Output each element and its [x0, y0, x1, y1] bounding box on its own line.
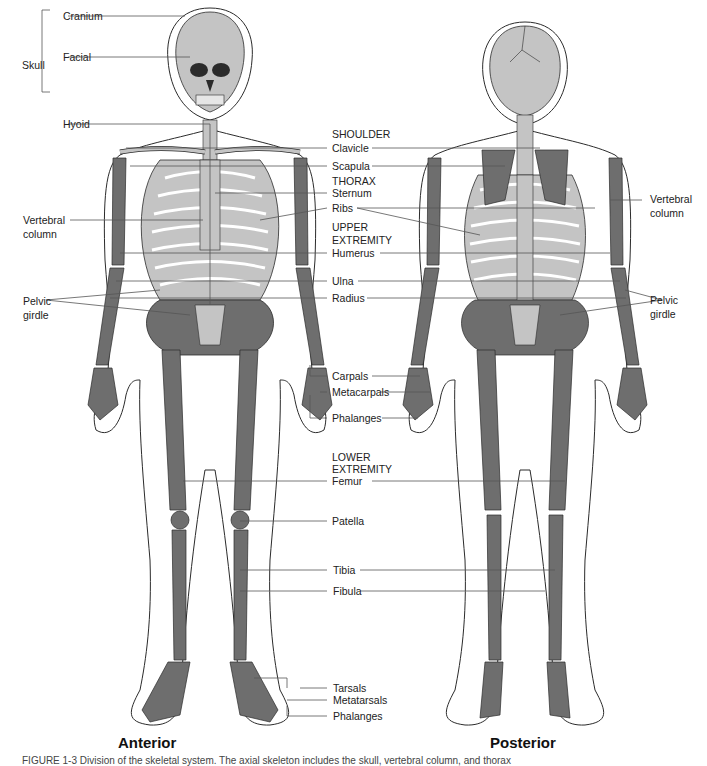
orbit-right [212, 63, 230, 77]
label-humerus: Humerus [332, 247, 375, 259]
label-hyoid: Hyoid [63, 118, 90, 130]
posterior-cranium [490, 26, 560, 116]
anterior-tibia-right [234, 530, 248, 660]
label-pelvic-girdle-right-1: Pelvic [650, 294, 678, 306]
label-clavicle: Clavicle [332, 142, 369, 154]
label-facial: Facial [63, 51, 91, 63]
label-fibula: Fibula [333, 585, 362, 597]
label-vertebral-column-right-2: column [650, 207, 684, 219]
label-ribs: Ribs [332, 202, 353, 214]
anterior-foot-right [230, 662, 278, 722]
anterior-patella-left [171, 511, 189, 529]
anterior-forearm-left [96, 268, 124, 365]
heading-thorax: THORAX [332, 175, 376, 187]
label-patella: Patella [332, 515, 364, 527]
label-tibia: Tibia [333, 564, 355, 576]
heading-upper-extremity-2: EXTREMITY [332, 234, 392, 246]
label-vertebral-column-right-1: Vertebral [650, 193, 692, 205]
anterior-skeleton [88, 8, 332, 725]
heading-shoulder: SHOULDER [332, 128, 390, 140]
label-scapula: Scapula [332, 160, 370, 172]
figure-caption: FIGURE 1-3 Division of the skeletal syst… [22, 755, 511, 766]
anterior-hand-left [88, 368, 118, 420]
label-femur: Femur [332, 475, 362, 487]
label-skull: Skull [22, 59, 45, 71]
label-sternum: Sternum [332, 187, 372, 199]
anterior-femur-right [234, 350, 258, 510]
label-pelvic-girdle-right-2: girdle [650, 308, 676, 320]
orbit-left [190, 63, 208, 77]
anterior-sacrum [195, 305, 225, 345]
posterior-sacrum [510, 305, 540, 345]
anterior-humerus-left [112, 158, 126, 265]
heading-upper-extremity-1: UPPER [332, 221, 368, 233]
anterior-tibia-left [172, 530, 186, 660]
heading-lower-extremity-1: LOWER [332, 451, 371, 463]
label-carpals: Carpals [332, 370, 368, 382]
label-phalanges-foot: Phalanges [333, 710, 383, 722]
label-metatarsals: Metatarsals [333, 694, 387, 706]
label-vertebral-column-left-2: column [23, 228, 57, 240]
anterior-foot-left [142, 662, 190, 722]
label-radius: Radius [332, 292, 365, 304]
heading-lower-extremity-2: EXTREMITY [332, 463, 392, 475]
label-pelvic-girdle-left-1: Pelvic [23, 295, 51, 307]
label-cranium: Cranium [63, 10, 103, 22]
label-ulna: Ulna [332, 275, 354, 287]
anterior-patella-right [231, 511, 249, 529]
anterior-femur-left [162, 350, 186, 510]
label-vertebral-column-left-1: Vertebral [23, 214, 65, 226]
posterior-skeleton [403, 22, 647, 725]
view-title-posterior: Posterior [490, 734, 556, 751]
view-title-anterior: Anterior [118, 734, 176, 751]
label-phalanges-hand: Phalanges [332, 412, 382, 424]
label-metacarpals: Metacarpals [332, 386, 389, 398]
label-pelvic-girdle-left-2: girdle [23, 309, 49, 321]
anterior-forearm-right [296, 268, 324, 365]
label-tarsals: Tarsals [333, 682, 366, 694]
